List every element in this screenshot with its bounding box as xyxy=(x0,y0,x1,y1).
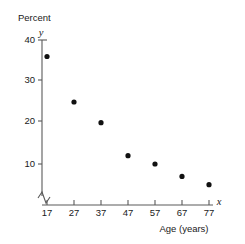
y-tick-label-10: 10 xyxy=(24,158,35,169)
scatter-plot-figure: 40 30 20 10 Percent y 17 27 37 47 57 67 … xyxy=(0,0,245,244)
data-point xyxy=(206,182,211,187)
data-point xyxy=(44,54,49,59)
x-tick-label-57: 57 xyxy=(150,207,161,218)
data-point xyxy=(179,174,184,179)
plot-canvas: 40 30 20 10 Percent y 17 27 37 47 57 67 … xyxy=(0,0,245,244)
x-tick-label-17: 17 xyxy=(42,207,53,218)
y-axis-variable: y xyxy=(38,27,44,38)
data-point xyxy=(71,99,76,104)
data-point xyxy=(98,120,103,125)
x-axis-title: Age (years) xyxy=(159,223,208,234)
y-tick-label-30: 30 xyxy=(24,74,35,85)
x-tick-label-27: 27 xyxy=(69,207,80,218)
y-tick-label-40: 40 xyxy=(24,34,35,45)
x-tick-label-47: 47 xyxy=(123,207,134,218)
x-axis-variable: x xyxy=(216,196,222,207)
x-tick-label-67: 67 xyxy=(177,207,188,218)
x-tick-label-77: 77 xyxy=(204,207,215,218)
y-axis-title: Percent xyxy=(18,12,51,23)
y-tick-label-20: 20 xyxy=(24,115,35,126)
data-point xyxy=(152,161,157,166)
data-point xyxy=(125,153,130,158)
x-tick-label-37: 37 xyxy=(96,207,107,218)
axis-break-icon xyxy=(38,192,50,203)
data-point-group xyxy=(44,54,211,187)
